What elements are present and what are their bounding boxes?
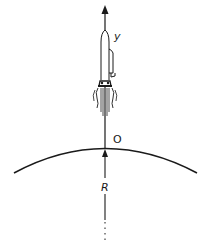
radius-label: R xyxy=(101,181,109,194)
y-axis xyxy=(102,5,109,30)
radius-line xyxy=(102,149,108,240)
exhaust-flames xyxy=(96,88,98,108)
radius-arrow-icon xyxy=(102,149,108,157)
y-axis-arrow-icon xyxy=(102,5,109,14)
rocket-diagram: y O R xyxy=(0,0,204,245)
origin-label: O xyxy=(113,133,122,146)
y-axis-label: y xyxy=(113,30,121,43)
